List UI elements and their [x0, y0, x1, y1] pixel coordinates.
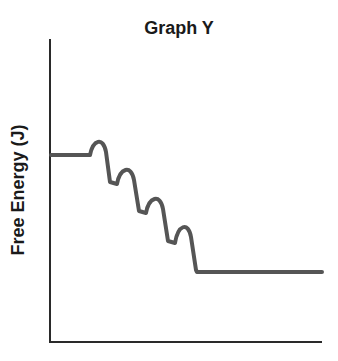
free-energy-curve [51, 142, 322, 272]
plot-area [0, 0, 338, 361]
